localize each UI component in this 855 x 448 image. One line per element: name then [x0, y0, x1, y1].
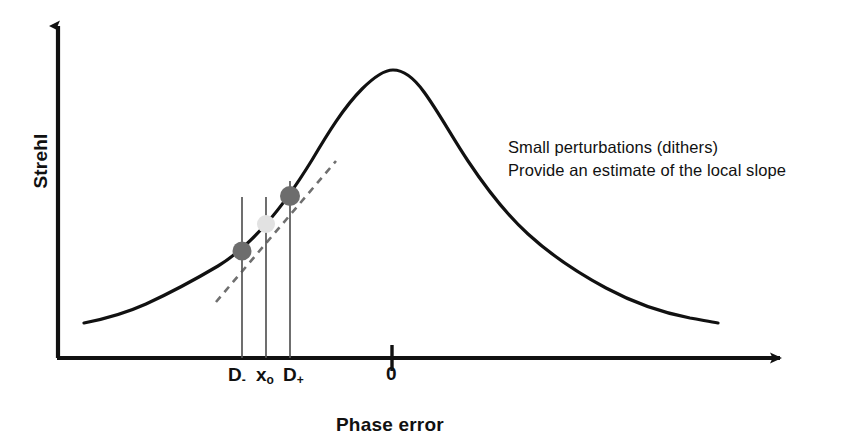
marker-dot-x0	[257, 215, 275, 233]
annotation-line-1: Small perturbations (dithers)	[508, 136, 786, 159]
strehl-phase-error-figure: Strehl Phase error D- xo D+ 0 Small pert…	[0, 0, 855, 448]
y-axis-label: Strehl	[30, 116, 52, 206]
tick-label-x0-sub: o	[267, 373, 274, 387]
tick-label-d-minus-main: D	[228, 364, 242, 385]
tick-label-d-plus-sub: +	[297, 373, 304, 387]
tick-label-d-plus-main: D	[283, 364, 297, 385]
annotation-line-2: Provide an estimate of the local slope	[508, 159, 786, 182]
tick-label-d-minus: D-	[228, 364, 246, 387]
tick-label-x0-main: x	[256, 364, 267, 385]
tick-label-d-minus-sub: -	[242, 373, 246, 387]
marker-dot-d-minus	[233, 242, 252, 261]
plot-canvas	[0, 0, 855, 448]
tick-label-zero: 0	[386, 363, 397, 385]
x-axis-label: Phase error	[336, 414, 444, 436]
local-slope-tangent-line	[216, 161, 336, 302]
annotation-text-block: Small perturbations (dithers) Provide an…	[508, 136, 786, 183]
tick-label-x0: xo	[256, 364, 274, 387]
tick-label-d-plus: D+	[283, 364, 304, 387]
strehl-curve	[84, 70, 718, 323]
marker-dot-d-plus	[280, 186, 300, 206]
